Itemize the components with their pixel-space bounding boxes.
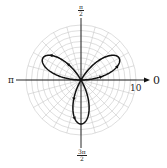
label-three-half-pi: 3π 2: [77, 149, 87, 162]
label-r-ten: 10: [130, 84, 141, 93]
label-half-pi: π 2: [78, 4, 84, 17]
label-zero: 0: [153, 75, 160, 86]
label-pi: π: [8, 76, 14, 85]
polar-plot: [0, 0, 167, 168]
